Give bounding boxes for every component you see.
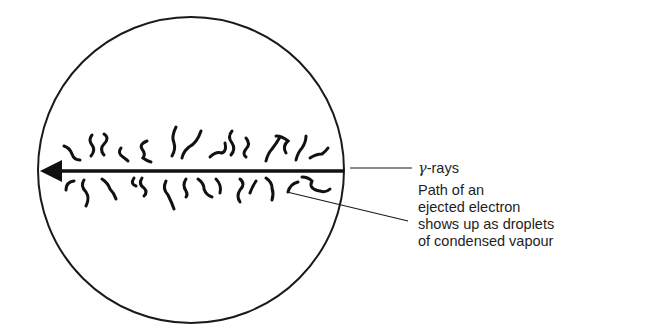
electron-tracks-upper [64,127,328,162]
electron-label-line-4: of condensed vapour [418,233,554,250]
arrowhead-icon [40,160,62,182]
electron-leader-line [287,192,408,221]
gamma-symbol: γ [418,160,427,176]
gamma-text: -rays [427,160,459,176]
electron-label-line-2: ejected electron [418,199,554,216]
cloud-chamber-diagram [0,0,661,332]
electron-label-line-3: shows up as droplets [418,216,554,233]
gamma-rays-label: γ-rays [418,160,459,177]
electron-label-line-1: Path of an [418,182,554,199]
electron-path-label: Path of an ejected electron shows up as … [418,182,554,250]
